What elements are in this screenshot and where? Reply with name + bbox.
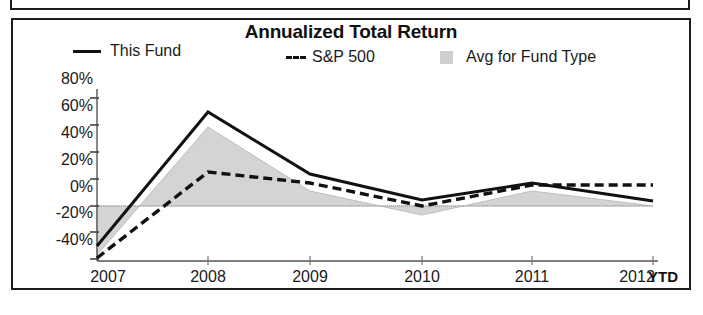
annualized-total-return-panel: Annualized Total Return This Fund S&P 50… (11, 18, 691, 290)
plot-area: 80% 60% 40% 20% 0% -20% -40% (13, 20, 689, 288)
x-tick-2007: 2007 (73, 268, 143, 286)
x-tick-2008: 2008 (173, 268, 243, 286)
x-tick-2011: 2011 (497, 268, 567, 286)
x-axis-tick-labels: 2007 2008 2009 2010 2011 2012 (13, 268, 689, 294)
x-tick-2010: 2010 (387, 268, 457, 286)
x-axis-ytd-label: YTD (648, 268, 678, 285)
x-tick-2009: 2009 (275, 268, 345, 286)
panel-above-partial (10, 0, 690, 10)
chart-canvas (13, 20, 689, 288)
